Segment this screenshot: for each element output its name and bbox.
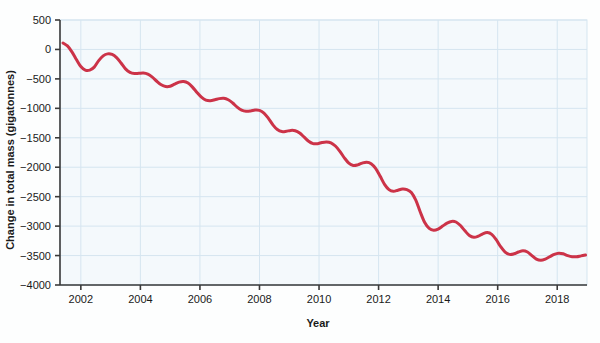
y-tick-label: −3500 — [20, 250, 51, 262]
x-tick-label: 2006 — [188, 293, 212, 305]
plot-background — [60, 20, 587, 285]
x-axis-title: Year — [306, 317, 330, 329]
y-tick-label: −1000 — [20, 102, 51, 114]
y-tick-label: −500 — [26, 73, 51, 85]
y-tick-label: −3000 — [20, 220, 51, 232]
x-tick-label: 2008 — [247, 293, 271, 305]
y-axis-title: Change in total mass (gigatonnes) — [4, 70, 16, 250]
x-tick-label: 2002 — [69, 293, 93, 305]
y-tick-label: −4000 — [20, 279, 51, 291]
x-tick-label: 2018 — [545, 293, 569, 305]
x-tick-label: 2016 — [485, 293, 509, 305]
chart-figure: 200220042006200820102012201420162018 500… — [0, 0, 600, 343]
x-tick-label: 2012 — [366, 293, 390, 305]
y-tick-label: −1500 — [20, 132, 51, 144]
x-tick-label: 2010 — [307, 293, 331, 305]
line-chart: 200220042006200820102012201420162018 500… — [0, 0, 600, 343]
y-tick-label: −2500 — [20, 191, 51, 203]
x-tick-labels: 200220042006200820102012201420162018 — [69, 293, 570, 305]
y-tick-label: −2000 — [20, 161, 51, 173]
x-tick-label: 2014 — [426, 293, 450, 305]
x-tick-label: 2004 — [128, 293, 152, 305]
y-tick-label: 500 — [33, 14, 51, 26]
y-tick-label: 0 — [45, 43, 51, 55]
